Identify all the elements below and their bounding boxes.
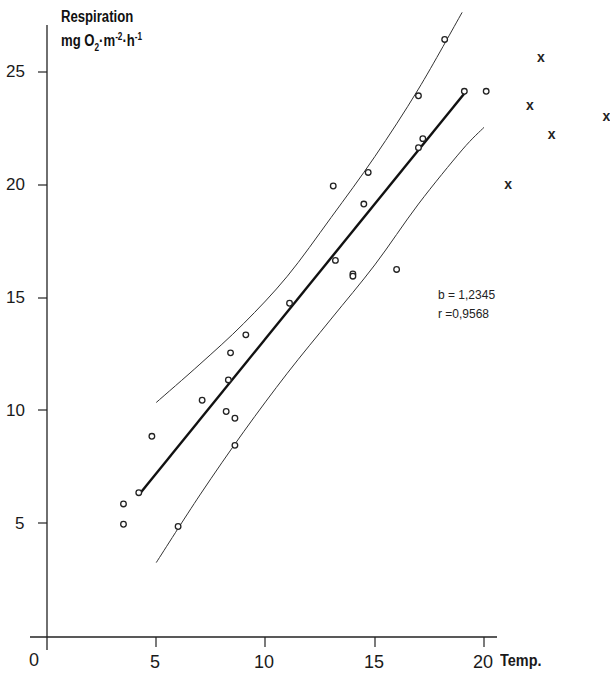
circle-marker (462, 88, 468, 94)
circle-marker (243, 332, 249, 338)
cross-marker: x (537, 49, 545, 65)
circle-marker (420, 136, 426, 142)
circle-marker (350, 273, 356, 279)
y-tick-label-10: 10 (6, 401, 25, 420)
circle-marker (361, 201, 367, 207)
y-tick-label-25: 25 (6, 62, 25, 81)
x-tick-label-20: 20 (473, 652, 493, 672)
confidence-bands (156, 12, 484, 562)
circle-marker (365, 170, 371, 176)
correlation-annotation: r =0,9568 (438, 307, 489, 321)
slope-annotation: b = 1,2345 (438, 288, 495, 302)
circle-marker (232, 443, 238, 449)
circle-marker (136, 490, 142, 496)
cross-marker: x (602, 108, 610, 124)
y-axis-title: Respiration mg O2·m-2·h-1 (61, 7, 142, 58)
cross-marker: x (504, 176, 512, 192)
circle-marker (226, 377, 232, 383)
circle-marker (199, 397, 205, 403)
circle-marker (175, 524, 181, 530)
y-tick-label-15: 15 (6, 288, 25, 307)
x-tick-label-0: 0 (29, 650, 39, 670)
circle-marker (442, 37, 448, 43)
circle-marker (394, 267, 400, 273)
y-tick-label-5: 5 (15, 514, 24, 533)
circle-marker (121, 521, 127, 527)
x-tick-label-5: 5 (150, 652, 160, 672)
circle-marker (416, 145, 422, 151)
regression-line (139, 94, 465, 495)
lower-confidence-curve (156, 127, 484, 562)
circle-marker (149, 434, 155, 440)
x-tick-label-10: 10 (254, 652, 274, 672)
x-ticks (156, 637, 484, 647)
x-tick-label-15: 15 (364, 652, 384, 672)
cross-marker: x (526, 97, 534, 113)
circle-marker (330, 183, 336, 189)
circle-marker (416, 93, 422, 99)
circle-marker (333, 258, 339, 264)
y-tick-label-20: 20 (6, 175, 25, 194)
circle-marker (287, 300, 293, 306)
data-points: xxxxx (121, 37, 610, 530)
circle-marker (223, 409, 229, 415)
circle-marker (483, 88, 489, 94)
circle-marker (232, 415, 238, 421)
x-axis-title: Temp. (500, 651, 541, 671)
regression-line-path (139, 94, 465, 495)
circle-marker (228, 350, 234, 356)
cross-marker: x (548, 126, 556, 142)
scatter-plot: 25 20 15 10 5 0 5 10 15 20 xxxxx (0, 0, 610, 679)
y-ticks (38, 72, 47, 523)
circle-marker (121, 501, 127, 507)
